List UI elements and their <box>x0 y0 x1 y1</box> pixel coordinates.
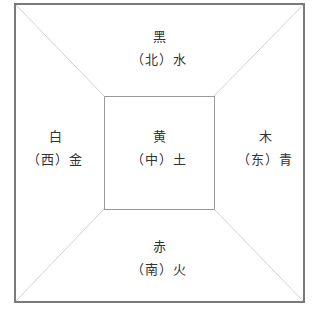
diagonal-bottom-left <box>16 209 104 301</box>
west-direction-element: （西）金 <box>20 152 90 168</box>
south-color: 赤 <box>124 239 194 255</box>
east-label-top: 木 <box>228 129 302 145</box>
region-west: 白 （西）金 <box>20 129 90 168</box>
center-direction-element: （中）土 <box>124 152 194 168</box>
north-direction-element: （北）水 <box>124 52 194 68</box>
region-center: 黄 （中）土 <box>124 129 194 168</box>
east-direction-element: （东）青 <box>228 152 302 168</box>
center-color: 黄 <box>124 129 194 145</box>
region-east: 木 （东）青 <box>228 129 302 168</box>
diagonal-bottom-right <box>214 209 303 301</box>
diagonal-top-left <box>16 5 104 96</box>
west-color: 白 <box>20 129 90 145</box>
south-direction-element: （南）火 <box>124 262 194 278</box>
north-color: 黑 <box>124 29 194 45</box>
diagonal-top-right <box>214 5 303 96</box>
region-south: 赤 （南）火 <box>124 239 194 278</box>
region-north: 黑 （北）水 <box>124 29 194 68</box>
